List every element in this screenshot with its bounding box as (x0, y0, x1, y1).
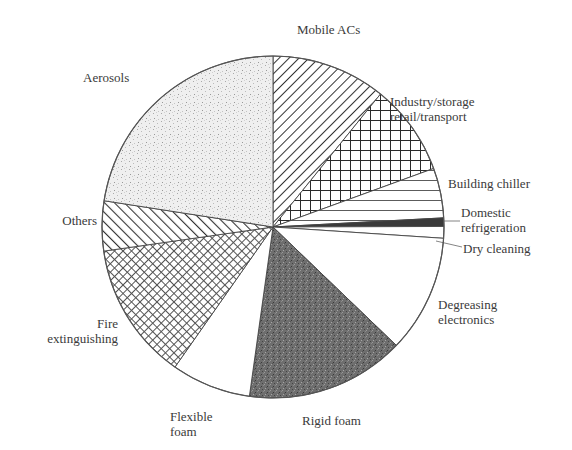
slice-label-line: Dry cleaning (463, 241, 531, 256)
slice-label: Others (62, 213, 97, 228)
slice-label: Rigid foam (302, 413, 361, 428)
slice-label-line: retail/transport (390, 109, 474, 124)
slice-label-line: Industry/storage (390, 94, 474, 109)
slice-label-line: refrigeration (461, 220, 526, 235)
slice-label-line: Mobile ACs (297, 22, 360, 37)
slice-label-line: Degreasing (438, 297, 497, 312)
slice-label-line: Rigid foam (302, 413, 361, 428)
slice-label-line: Aerosols (83, 70, 129, 85)
slice-label: Building chiller (448, 176, 530, 191)
slice-label-line: Fire (47, 316, 118, 331)
slice-label: Dry cleaning (463, 241, 531, 256)
pie-slice-aerosols (104, 56, 273, 227)
slice-label-line: extinguishing (47, 331, 118, 346)
slice-label: Aerosols (83, 70, 129, 85)
slice-label: Domesticrefrigeration (461, 205, 526, 235)
slice-label: Industry/storageretail/transport (390, 94, 474, 124)
slice-label: Fireextinguishing (47, 316, 118, 346)
slice-label: Flexiblefoam (170, 409, 213, 439)
slice-label-line: Others (62, 213, 97, 228)
slice-label-line: foam (170, 424, 213, 439)
slice-label-line: Domestic (461, 205, 526, 220)
slice-label-line: electronics (438, 312, 497, 327)
slice-label-line: Flexible (170, 409, 213, 424)
slice-label: Mobile ACs (297, 22, 360, 37)
slice-label-line: Building chiller (448, 176, 530, 191)
slice-label: Degreasingelectronics (438, 297, 497, 327)
